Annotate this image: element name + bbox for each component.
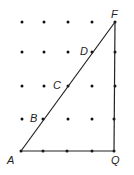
point-label-a: A <box>7 155 14 166</box>
point-label-f: F <box>111 9 118 20</box>
point-label-q: Q <box>111 155 120 166</box>
segment-AF <box>21 22 115 151</box>
point-label-d: D <box>80 46 88 57</box>
dot-grid-diagram <box>0 0 134 175</box>
triangle-AFQ <box>21 22 115 151</box>
point-label-b: B <box>30 113 37 124</box>
point-label-c: C <box>53 80 61 91</box>
segment-FQ <box>114 22 115 151</box>
